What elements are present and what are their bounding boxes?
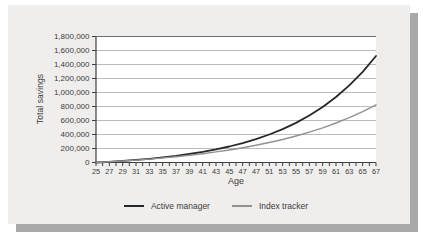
x-tick-label: 47 bbox=[252, 167, 260, 176]
x-tick-label: 41 bbox=[199, 167, 207, 176]
y-tick-label: 1,200,000 bbox=[54, 74, 90, 83]
x-tick-label: 25 bbox=[92, 167, 100, 176]
x-axis-title: Age bbox=[96, 176, 376, 186]
x-tick-label: 37 bbox=[172, 167, 180, 176]
figure: 1,800,0001,600,0001,400,0001,200,0001,00… bbox=[0, 0, 423, 239]
x-tick-label: 27 bbox=[105, 167, 113, 176]
chart-card: 1,800,0001,600,0001,400,0001,200,0001,00… bbox=[8, 5, 410, 224]
x-tick-label: 61 bbox=[332, 167, 340, 176]
legend: Active manager Index tracker bbox=[22, 199, 410, 213]
y-tick-label: 200,000 bbox=[61, 144, 90, 153]
y-axis-title: Total savings bbox=[35, 74, 45, 124]
y-tick-label: 1,000,000 bbox=[54, 88, 90, 97]
legend-swatch-active-manager-line bbox=[124, 205, 144, 207]
x-tick-label: 63 bbox=[345, 167, 353, 176]
x-tick-label: 43 bbox=[212, 167, 220, 176]
x-tick-label: 55 bbox=[292, 167, 300, 176]
y-tick-label: 1,800,000 bbox=[54, 32, 90, 41]
y-tick-label: 1,400,000 bbox=[54, 60, 90, 69]
x-tick-label: 65 bbox=[359, 167, 367, 176]
x-tick-label: 67 bbox=[372, 167, 380, 176]
y-tick-label: 600,000 bbox=[61, 116, 90, 125]
x-tick-label: 29 bbox=[119, 167, 127, 176]
legend-label-active-manager: Active manager bbox=[151, 201, 210, 211]
legend-item-index-tracker: Index tracker bbox=[232, 201, 308, 211]
x-tick-label: 47 bbox=[239, 167, 247, 176]
x-tick-label: 51 bbox=[265, 167, 273, 176]
x-tick-label: 45 bbox=[225, 167, 233, 176]
legend-item-active-manager: Active manager bbox=[124, 201, 210, 211]
x-tick-label: 53 bbox=[279, 167, 287, 176]
y-tick-label: 1,600,000 bbox=[54, 46, 90, 55]
legend-swatch-index-tracker-line bbox=[232, 205, 252, 207]
legend-label-index-tracker: Index tracker bbox=[259, 201, 308, 211]
x-tick-label: 59 bbox=[319, 167, 327, 176]
y-tick-label: 400,000 bbox=[61, 130, 90, 139]
x-tick-label: 35 bbox=[159, 167, 167, 176]
y-tick-label: 0 bbox=[85, 158, 90, 167]
x-tick-label: 31 bbox=[132, 167, 140, 176]
x-tick-label: 33 bbox=[145, 167, 153, 176]
y-tick-label: 800,000 bbox=[61, 102, 90, 111]
plot-area: 1,800,0001,600,0001,400,0001,200,0001,00… bbox=[8, 5, 410, 224]
x-tick-label: 57 bbox=[305, 167, 313, 176]
x-tick-label: 39 bbox=[185, 167, 193, 176]
